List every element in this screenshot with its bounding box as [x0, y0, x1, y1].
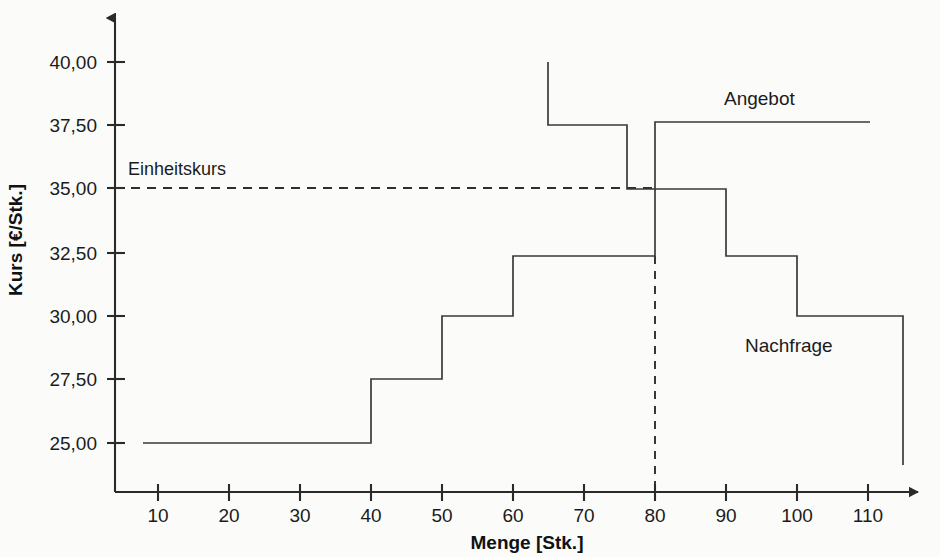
x-tick-label-20: 20: [218, 505, 239, 526]
einheitskurs-label: Einheitskurs: [128, 159, 226, 179]
axes: [115, 18, 918, 492]
x-tick-label-100: 100: [781, 505, 813, 526]
y-tick-label-35: 35,00: [49, 178, 97, 199]
demand-curve: [143, 189, 903, 465]
y-tick-label-37.5: 37,50: [49, 115, 97, 136]
x-tick-label-110: 110: [853, 505, 883, 526]
supply-curve-label: Angebot: [724, 88, 796, 109]
x-tick-label-70: 70: [573, 505, 594, 526]
x-tick-label-50: 50: [431, 505, 452, 526]
y-axis-title: Kurs [€/Stk.]: [5, 184, 26, 296]
y-axis-tick-labels: 40,00 37,50 35,00 32,50 30,00 27,50 25,0…: [49, 52, 97, 454]
supply-curve: [548, 62, 870, 189]
x-axis-title: Menge [Stk.]: [471, 532, 584, 553]
x-tick-label-40: 40: [360, 505, 381, 526]
x-tick-label-80: 80: [644, 505, 665, 526]
supply-demand-chart: 40,00 37,50 35,00 32,50 30,00 27,50 25,0…: [0, 0, 940, 557]
y-tick-label-40: 40,00: [49, 52, 97, 73]
demand-curve-label: Nachfrage: [745, 335, 833, 356]
chart-page: 40,00 37,50 35,00 32,50 30,00 27,50 25,0…: [0, 0, 940, 557]
y-tick-label-30: 30,00: [49, 306, 97, 327]
x-tick-label-60: 60: [502, 505, 523, 526]
y-tick-label-25: 25,00: [49, 433, 97, 454]
y-tick-label-27.5: 27,50: [49, 369, 97, 390]
x-tick-label-90: 90: [715, 505, 736, 526]
x-tick-label-30: 30: [289, 505, 310, 526]
x-axis-tick-labels: 10 20 30 40 50 60 70 80 90 100 110: [147, 505, 883, 526]
x-tick-label-10: 10: [147, 505, 168, 526]
y-tick-label-32.5: 32,50: [49, 243, 97, 264]
